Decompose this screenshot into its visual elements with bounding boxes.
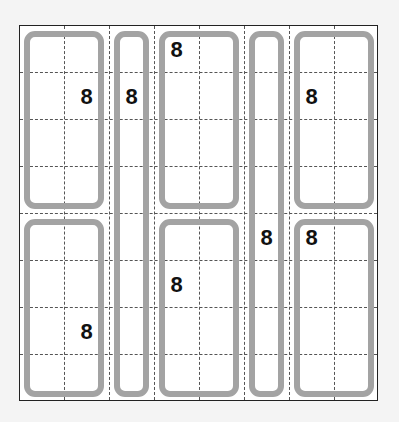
clue-number[interactable]: 8: [244, 214, 289, 261]
clue-number[interactable]: 8: [289, 73, 334, 120]
puzzle-board: 88888888: [19, 25, 378, 401]
cage-5: [294, 31, 374, 209]
clue-number[interactable]: 8: [289, 214, 334, 261]
cage-7: [159, 219, 239, 397]
clue-number[interactable]: 8: [64, 73, 109, 120]
cage-1: [24, 31, 104, 209]
clue-number[interactable]: 8: [109, 73, 154, 120]
clue-number[interactable]: 8: [154, 261, 199, 308]
clue-number[interactable]: 8: [154, 26, 199, 73]
clue-number[interactable]: 8: [64, 308, 109, 355]
